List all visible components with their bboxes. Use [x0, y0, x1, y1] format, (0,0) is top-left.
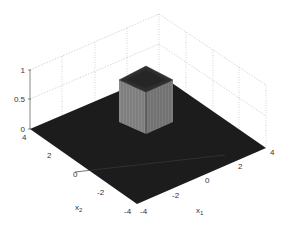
x2-tick-2: 2 [47, 151, 52, 160]
x2-tick-neg2: -2 [97, 188, 105, 197]
x2-tick-0: 0 [73, 170, 78, 179]
surface-plot: 1 0.5 0 4 2 0 -2 -4 [0, 0, 286, 229]
x2-tick-neg4: -4 [124, 207, 132, 216]
x2-label: x2 [75, 203, 83, 213]
surface-plateau [119, 66, 173, 134]
x1-tick-neg4: -4 [140, 207, 148, 216]
x1-tick-neg2: -2 [172, 191, 180, 200]
x1-tick-2: 2 [238, 162, 243, 171]
x1-label: x1 [196, 206, 204, 216]
z-tick-0.5: 0.5 [14, 95, 26, 104]
x1-tick-4: 4 [270, 148, 275, 157]
z-axis: 1 0.5 0 [14, 66, 31, 134]
z-tick-1: 1 [21, 66, 26, 75]
x2-tick-4: 4 [22, 133, 27, 142]
x1-tick-0: 0 [205, 176, 210, 185]
